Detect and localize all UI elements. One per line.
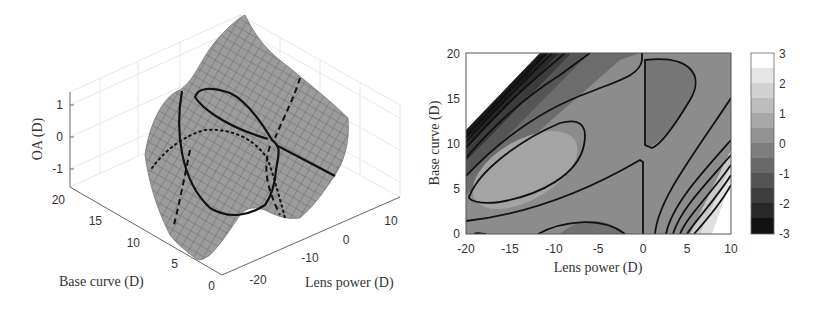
x-tick-label: 0 bbox=[343, 233, 350, 247]
x-tick-label: -10 bbox=[545, 242, 563, 256]
y-tick-label: 15 bbox=[447, 92, 461, 106]
base-curve-axis-label: Base curve (D) bbox=[59, 274, 144, 290]
surface-mesh bbox=[145, 15, 348, 260]
z-tick-label: -1 bbox=[52, 162, 63, 176]
lens-power-axis: -20 -10 0 10 Lens power (D) bbox=[222, 197, 400, 291]
colorbar-tick-label: -2 bbox=[779, 197, 790, 211]
z-tick-label: 1 bbox=[56, 98, 63, 112]
x-tick-label: 10 bbox=[384, 214, 398, 228]
x-tick-label: -5 bbox=[593, 242, 604, 256]
colorbar-tick-label: -3 bbox=[779, 227, 790, 241]
z-axis-label: OA (D) bbox=[30, 117, 46, 160]
contour-plot-panel: -20 -15 -10 -5 0 5 10 Lens power (D) 0 5… bbox=[410, 0, 816, 309]
colorbar-tick-label: 2 bbox=[779, 77, 786, 91]
y-axis-label: Base curve (D) bbox=[427, 100, 443, 185]
x-tick-label: -20 bbox=[457, 242, 475, 256]
x-tick-label: 10 bbox=[724, 242, 738, 256]
y-tick-label: 5 bbox=[453, 182, 460, 196]
x-tick-label: -20 bbox=[249, 273, 267, 287]
y-tick-label: 0 bbox=[453, 227, 460, 241]
z-axis: 1 0 -1 OA (D) bbox=[30, 92, 74, 187]
y-tick-label: 15 bbox=[89, 214, 103, 228]
x-tick-label: 0 bbox=[640, 242, 647, 256]
colorbar: 3 2 1 0 -1 -2 -3 bbox=[751, 47, 790, 241]
x-axis: -20 -15 -10 -5 0 5 10 Lens power (D) bbox=[457, 242, 738, 276]
surface-plot-panel: 1 0 -1 OA (D) 20 15 10 5 0 Base curve (D… bbox=[0, 0, 410, 309]
surface-plot: 1 0 -1 OA (D) 20 15 10 5 0 Base curve (D… bbox=[0, 0, 410, 309]
lens-power-axis-label: Lens power (D) bbox=[305, 275, 394, 291]
y-tick-label: 20 bbox=[447, 47, 461, 61]
z-tick-label: 0 bbox=[56, 130, 63, 144]
x-tick-label: -15 bbox=[501, 242, 519, 256]
y-tick-label: 20 bbox=[52, 193, 66, 207]
y-axis: 0 5 10 15 20 Base curve (D) bbox=[427, 47, 460, 241]
colorbar-tick-label: 1 bbox=[779, 107, 786, 121]
colorbar-tick-label: -1 bbox=[779, 167, 790, 181]
contour-plot: -20 -15 -10 -5 0 5 10 Lens power (D) 0 5… bbox=[410, 0, 816, 309]
y-tick-label: 10 bbox=[127, 236, 141, 250]
colorbar-tick-label: 0 bbox=[779, 137, 786, 151]
x-tick-label: -10 bbox=[301, 251, 319, 265]
colorbar-tick-label: 3 bbox=[779, 47, 786, 61]
y-tick-label: 5 bbox=[171, 257, 178, 271]
x-tick-label: 5 bbox=[684, 242, 691, 256]
y-tick-label: 10 bbox=[447, 137, 461, 151]
x-axis-label: Lens power (D) bbox=[554, 260, 643, 276]
y-tick-label: 0 bbox=[208, 279, 215, 293]
